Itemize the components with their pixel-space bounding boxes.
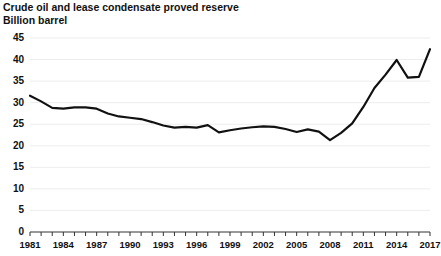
y-gridlines <box>30 38 430 210</box>
x-axis-tick-label: 2002 <box>253 239 274 250</box>
y-axis-tick-label: 35 <box>0 76 24 86</box>
y-axis-tick-label: 5 <box>0 205 24 215</box>
x-axis-ticks <box>30 232 430 236</box>
y-axis-tick-label: 20 <box>0 141 24 151</box>
x-axis-tick-label: 2017 <box>419 239 440 250</box>
y-axis-tick-label: 30 <box>0 98 24 108</box>
x-axis-tick-label: 1984 <box>53 239 74 250</box>
x-axis-tick-label: 1996 <box>186 239 207 250</box>
x-axis-tick-label: 2011 <box>353 239 374 250</box>
y-axis-tick-label: 0 <box>0 227 24 237</box>
x-axis-tick-label: 1981 <box>19 239 40 250</box>
x-axis-tick-label: 1993 <box>153 239 174 250</box>
x-axis-tick-label: 2005 <box>286 239 307 250</box>
x-axis-tick-label: 1990 <box>119 239 140 250</box>
x-axis-tick-label: 1999 <box>219 239 240 250</box>
y-axis-tick-label: 45 <box>0 33 24 43</box>
y-axis-tick-label: 15 <box>0 162 24 172</box>
data-series-line <box>30 49 430 140</box>
y-axis-tick-label: 10 <box>0 184 24 194</box>
y-axis-tick-label: 40 <box>0 55 24 65</box>
x-axis-tick-label: 1987 <box>86 239 107 250</box>
y-axis-tick-label: 25 <box>0 119 24 129</box>
x-axis-tick-label: 2014 <box>386 239 407 250</box>
x-axis-tick-label: 2008 <box>319 239 340 250</box>
